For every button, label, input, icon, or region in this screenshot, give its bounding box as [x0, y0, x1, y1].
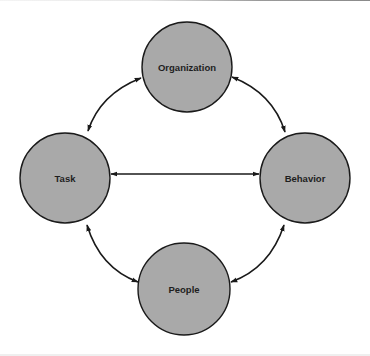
diagram-canvas: Organization Task Behavior People: [0, 0, 370, 356]
node-label-behavior: Behavior: [285, 173, 326, 184]
node-label-organization: Organization: [158, 62, 216, 73]
node-label-task: Task: [55, 173, 77, 184]
edge-organization-behavior: [232, 77, 285, 132]
node-people: People: [138, 243, 230, 335]
edge-organization-task: [88, 78, 141, 131]
node-behavior: Behavior: [260, 133, 350, 223]
edge-behavior-people: [231, 225, 284, 282]
node-label-people: People: [168, 284, 199, 295]
node-organization: Organization: [142, 22, 232, 112]
node-task: Task: [20, 133, 110, 223]
edge-task-people: [87, 225, 138, 282]
relationship-diagram: Organization Task Behavior People: [0, 0, 370, 356]
